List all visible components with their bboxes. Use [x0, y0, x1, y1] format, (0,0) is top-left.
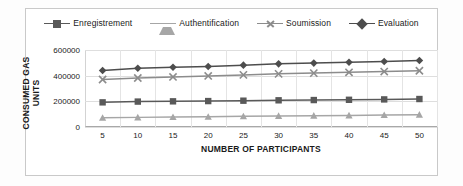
- legend-item-soumission[interactable]: Soumission: [257, 18, 331, 28]
- triangle-marker-icon: [159, 19, 175, 35]
- square-point-marker: [346, 97, 352, 103]
- series-line: [103, 99, 420, 102]
- diamond-point-marker: [204, 63, 212, 71]
- plot-area: 02000004000006000005101520253035404550: [85, 50, 437, 127]
- y-tick-label: 400000: [53, 71, 80, 80]
- legend-label: Soumission: [286, 18, 331, 28]
- square-point-marker: [99, 99, 105, 105]
- legend-label: Authentification: [179, 18, 239, 28]
- series-authentification: [99, 111, 423, 121]
- chart-legend: EnregistrementAuthentificationSoumission…: [25, 12, 438, 34]
- series-enregistrement: [99, 96, 422, 106]
- legend-swatch-square-icon: [44, 18, 70, 28]
- diamond-point-marker: [275, 60, 283, 68]
- diamond-point-marker: [380, 58, 388, 66]
- y-tick-label: 0: [76, 123, 80, 132]
- series-line: [103, 71, 420, 80]
- y-tick-label: 600000: [53, 46, 80, 55]
- square-marker-icon: [53, 20, 61, 28]
- diamond-point-marker: [99, 67, 107, 75]
- square-point-marker: [135, 98, 141, 104]
- legend-item-enregistrement[interactable]: Enregistrement: [44, 18, 132, 28]
- series-soumission: [99, 67, 423, 83]
- legend-swatch-diamond-icon: [349, 18, 375, 28]
- series-line: [103, 115, 420, 118]
- legend-swatch-x-icon: [257, 18, 283, 28]
- legend-label: Enregistrement: [73, 18, 132, 28]
- legend-item-authentification[interactable]: Authentification: [150, 18, 239, 28]
- legend-label: Evaluation: [378, 18, 419, 28]
- x-axis-title: NUMBER OF PARTICIPANTS: [85, 144, 437, 154]
- y-axis-title: CONSUMED GAS UNITS: [21, 43, 41, 143]
- x-marker-icon: [266, 19, 274, 27]
- square-point-marker: [170, 98, 176, 104]
- y-tick-label: 200000: [53, 97, 80, 106]
- diamond-point-marker: [416, 57, 424, 65]
- square-point-marker: [275, 97, 281, 103]
- diamond-point-marker: [240, 61, 248, 69]
- chart-figure: EnregistrementAuthentificationSoumission…: [0, 0, 463, 186]
- series-layer: [85, 40, 437, 137]
- diamond-point-marker: [134, 64, 142, 72]
- square-point-marker: [205, 98, 211, 104]
- y-axis-title-wrapper: CONSUMED GAS UNITS: [24, 40, 38, 140]
- diamond-marker-icon: [356, 18, 367, 29]
- x-gridline: [437, 50, 438, 127]
- series-line: [103, 61, 420, 71]
- diamond-point-marker: [310, 59, 318, 67]
- square-point-marker: [416, 96, 422, 102]
- legend-swatch-triangle-icon: [150, 18, 176, 28]
- square-point-marker: [311, 97, 317, 103]
- diamond-point-marker: [169, 63, 177, 71]
- square-point-marker: [240, 97, 246, 103]
- diamond-point-marker: [345, 59, 353, 67]
- square-point-marker: [381, 96, 387, 102]
- legend-item-evaluation[interactable]: Evaluation: [349, 18, 419, 28]
